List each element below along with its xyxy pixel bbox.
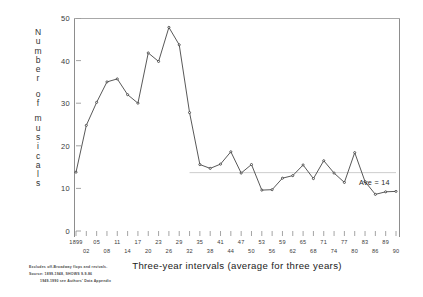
data-point-marker bbox=[219, 163, 221, 165]
x-axis-tick-label: 17 bbox=[135, 239, 142, 245]
x-axis-tick-label: 23 bbox=[155, 239, 162, 245]
data-point-marker bbox=[147, 52, 149, 54]
x-axis-tick-label: 80 bbox=[351, 248, 358, 254]
data-point-marker bbox=[230, 151, 232, 153]
data-point-marker bbox=[333, 172, 335, 174]
data-point-marker bbox=[75, 171, 77, 173]
x-axis-tick-label: 83 bbox=[362, 239, 369, 245]
y-axis-tick-label: 40 bbox=[48, 57, 70, 66]
footnote-line: Source: 1899-1948, SHOWS 9-9-86 bbox=[29, 271, 179, 278]
data-point-marker bbox=[281, 177, 283, 179]
data-point-marker bbox=[323, 160, 325, 162]
y-axis-tick-label: 0 bbox=[48, 227, 70, 236]
footnote-line: 1949-1990 see Authors' Data Appendix bbox=[29, 278, 179, 285]
y-axis-title-letter: r bbox=[37, 74, 40, 83]
data-point-marker bbox=[199, 163, 201, 165]
data-point-marker bbox=[106, 81, 108, 83]
chart-series-svg bbox=[74, 18, 400, 237]
data-point-marker bbox=[385, 191, 387, 193]
x-axis-tick-label: 38 bbox=[207, 248, 214, 254]
x-axis-tick-label: 59 bbox=[279, 239, 286, 245]
y-axis-title-letter: s bbox=[36, 179, 40, 188]
y-axis-tick-label: 30 bbox=[48, 99, 70, 108]
x-axis-tick-label: 32 bbox=[186, 248, 193, 254]
data-point-marker bbox=[116, 78, 118, 80]
y-axis-title: Numberofmusicals bbox=[30, 28, 46, 189]
y-axis-tick-label: 50 bbox=[48, 14, 70, 23]
x-axis-tick-label: 89 bbox=[382, 239, 389, 245]
data-point-marker bbox=[343, 181, 345, 183]
x-axis-tick-label: 1899 bbox=[69, 239, 82, 245]
x-axis-tick-label: 74 bbox=[331, 248, 338, 254]
data-point-marker bbox=[271, 189, 273, 191]
x-axis-tick-label: 62 bbox=[289, 248, 296, 254]
data-point-marker bbox=[395, 190, 397, 192]
x-axis-tick-label: 50 bbox=[248, 248, 255, 254]
data-point-marker bbox=[374, 193, 376, 195]
data-point-marker bbox=[261, 189, 263, 191]
data-point-marker bbox=[250, 163, 252, 165]
x-axis-tick-label: 71 bbox=[320, 239, 327, 245]
x-axis-tick-label: 11 bbox=[114, 239, 120, 245]
y-axis-tick-labels: 50403020100 bbox=[46, 18, 70, 237]
x-axis-tick-label: 47 bbox=[238, 239, 245, 245]
x-axis-tick-label: 68 bbox=[310, 248, 317, 254]
data-point-marker bbox=[209, 167, 211, 169]
plot-area bbox=[74, 18, 400, 237]
x-axis-tick-label: 65 bbox=[300, 239, 307, 245]
x-axis-tick-label: 56 bbox=[269, 248, 276, 254]
x-axis-tick-label: 86 bbox=[372, 248, 379, 254]
data-point-marker bbox=[96, 101, 98, 103]
footnote-block: Excludes off-Broadway flops and revivals… bbox=[29, 264, 179, 284]
data-point-marker bbox=[85, 124, 87, 126]
x-axis-tick-label: 41 bbox=[217, 239, 224, 245]
data-point-marker bbox=[137, 102, 139, 104]
average-annotation-label: Ave = 14 bbox=[359, 178, 390, 187]
x-axis-tick-labels: 1899020508111417202326293235384144475053… bbox=[74, 239, 400, 261]
x-axis-tick-label: 20 bbox=[145, 248, 152, 254]
data-point-marker bbox=[292, 175, 294, 177]
x-axis-tick-label: 14 bbox=[124, 248, 131, 254]
y-axis-title-letter: f bbox=[37, 99, 39, 108]
x-axis-tick-label: 05 bbox=[93, 239, 100, 245]
x-axis-tick-label: 29 bbox=[176, 239, 183, 245]
x-axis-tick-label: 26 bbox=[166, 248, 173, 254]
x-axis-tick-label: 44 bbox=[227, 248, 234, 254]
x-axis-tick-label: 90 bbox=[393, 248, 400, 254]
data-point-marker bbox=[354, 152, 356, 154]
data-point-marker bbox=[188, 112, 190, 114]
x-axis-tick-label: 02 bbox=[83, 248, 90, 254]
x-axis-tick-label: 35 bbox=[196, 239, 203, 245]
data-point-marker bbox=[158, 60, 160, 62]
x-axis-tick-label: 08 bbox=[104, 248, 111, 254]
data-point-marker bbox=[312, 178, 314, 180]
y-axis-tick-label: 20 bbox=[48, 142, 70, 151]
data-point-marker bbox=[240, 172, 242, 174]
data-point-marker bbox=[178, 44, 180, 46]
x-axis-tick-label: 53 bbox=[258, 239, 265, 245]
data-point-marker bbox=[127, 94, 129, 96]
data-point-marker bbox=[168, 26, 170, 28]
y-axis-tick-label: 10 bbox=[48, 184, 70, 193]
chart-figure: Numberofmusicals 50403020100 18990205081… bbox=[0, 0, 423, 297]
x-axis-tick-label: 77 bbox=[341, 239, 348, 245]
series-line bbox=[76, 27, 396, 194]
footnote-line: Excludes off-Broadway flops and revivals… bbox=[29, 264, 179, 271]
data-point-marker bbox=[302, 164, 304, 166]
